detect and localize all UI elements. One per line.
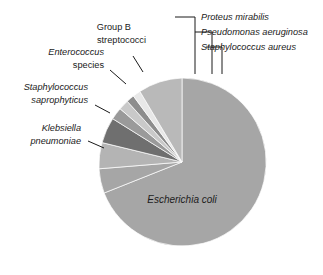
label-escherichia-coli: Escherichia coli: [147, 194, 217, 205]
label-klebsiella-pneumoniae-line1: Klebsiella: [42, 123, 81, 133]
label-staphylococcus-saprophyticus-line2: saprophyticus: [31, 95, 88, 105]
label-klebsiella-pneumoniae-line2: pneumoniae: [29, 136, 81, 146]
pie-chart-svg: Proteus mirabilis Pseudomonas aeruginosa…: [0, 0, 323, 275]
label-group-b-streptococci-line1: Group B: [97, 22, 131, 32]
label-enterococcus-species-line1: Enterococcus: [48, 47, 104, 57]
leader-group-b-streptococci: [133, 56, 143, 72]
label-staphylococcus-saprophyticus-line1: Staphylococcus: [24, 82, 89, 92]
label-enterococcus-species-line2: species: [73, 60, 105, 70]
pie-chart-figure: Proteus mirabilis Pseudomonas aeruginosa…: [0, 0, 323, 275]
leader-proteus-mirabilis: [175, 17, 195, 74]
leader-enterococcus-species: [110, 70, 126, 84]
leader-pseudomonas-aeruginosa: [195, 32, 212, 74]
leader-staphylococcus-saprophyticus: [95, 105, 110, 113]
label-group-b-streptococci-line2: streptococci: [97, 35, 146, 45]
label-proteus-mirabilis: Proteus mirabilis: [201, 12, 269, 22]
label-staphylococcus-aureus: Staphylococcus aureus: [201, 42, 296, 52]
pie-slices: [99, 78, 266, 246]
label-pseudomonas-aeruginosa: Pseudomonas aeruginosa: [201, 27, 308, 37]
